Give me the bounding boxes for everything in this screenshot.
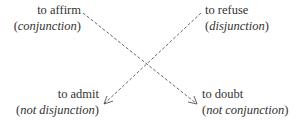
node-term: (conjunction)	[14, 18, 81, 34]
edge-refuse-to-admit	[104, 13, 201, 104]
node-term: (not conjunction)	[202, 102, 288, 118]
node-verb: to affirm	[14, 2, 81, 18]
node-bottom-right: to doubt (not conjunction)	[202, 86, 288, 118]
node-top-left: to affirm (conjunction)	[14, 2, 81, 34]
node-term: (not disjunction)	[16, 102, 99, 118]
node-top-right: to refuse (disjunction)	[205, 2, 269, 34]
node-verb: to doubt	[202, 86, 288, 102]
edge-affirm-to-doubt	[83, 13, 197, 104]
arrowhead-icon	[188, 96, 197, 104]
node-term: (disjunction)	[205, 18, 269, 34]
node-verb: to admit	[16, 86, 99, 102]
node-verb: to refuse	[205, 2, 269, 18]
node-bottom-left: to admit (not disjunction)	[16, 86, 99, 118]
